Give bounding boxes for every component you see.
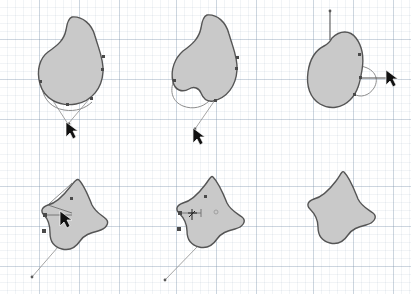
path-node[interactable] bbox=[66, 103, 69, 106]
path-node[interactable] bbox=[204, 195, 207, 198]
panel-3[interactable] bbox=[274, 0, 411, 147]
figure-root bbox=[0, 0, 412, 294]
path-node[interactable] bbox=[177, 227, 181, 231]
path-node[interactable] bbox=[214, 99, 217, 102]
guide-endpoint-dot-top[interactable] bbox=[329, 10, 332, 13]
panel-6-canvas[interactable] bbox=[274, 147, 411, 294]
path-node[interactable] bbox=[42, 229, 46, 233]
panel-1[interactable] bbox=[0, 0, 137, 147]
cursor-arrow-pointer bbox=[66, 122, 78, 139]
panel-1-canvas[interactable] bbox=[0, 0, 137, 147]
shape-fin-final[interactable] bbox=[308, 172, 375, 244]
shape-teardrop-blob-notched[interactable] bbox=[172, 15, 237, 101]
handle-endpoint-dot[interactable] bbox=[31, 276, 34, 279]
shape-teardrop-blob[interactable] bbox=[38, 17, 103, 105]
path-node[interactable] bbox=[70, 197, 73, 200]
ghost-tail-line bbox=[32, 247, 58, 277]
panel-5-canvas[interactable] bbox=[137, 147, 274, 294]
shape-fin-selected[interactable] bbox=[177, 177, 244, 248]
ghost-tail-line bbox=[165, 247, 197, 280]
panel-4-canvas[interactable] bbox=[0, 147, 137, 294]
cursor-arrow-pointer bbox=[193, 128, 205, 145]
path-node[interactable] bbox=[173, 79, 176, 82]
panel-2[interactable] bbox=[137, 0, 274, 147]
panel-6[interactable] bbox=[274, 147, 411, 294]
shape-blob-with-arms[interactable] bbox=[308, 32, 363, 107]
path-node[interactable] bbox=[236, 56, 239, 59]
path-node[interactable] bbox=[90, 97, 93, 100]
path-node[interactable] bbox=[359, 76, 362, 79]
path-node[interactable] bbox=[102, 55, 105, 58]
panel-2-canvas[interactable] bbox=[137, 0, 274, 147]
path-node[interactable] bbox=[178, 211, 182, 215]
cursor-arrow-pointer bbox=[386, 70, 398, 87]
shape-fin[interactable] bbox=[42, 179, 108, 249]
panel-4[interactable] bbox=[0, 147, 137, 294]
path-node[interactable] bbox=[101, 68, 104, 71]
path-node[interactable] bbox=[358, 53, 361, 56]
panel-3-canvas[interactable] bbox=[274, 0, 411, 147]
path-node[interactable] bbox=[235, 67, 238, 70]
path-node[interactable] bbox=[43, 213, 47, 217]
path-node[interactable] bbox=[353, 93, 356, 96]
handle-endpoint-dot[interactable] bbox=[164, 279, 167, 282]
path-node[interactable] bbox=[39, 80, 42, 83]
panel-5[interactable] bbox=[137, 147, 274, 294]
